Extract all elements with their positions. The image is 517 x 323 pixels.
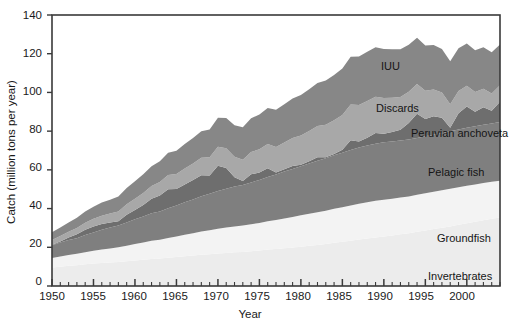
x-axis-title: Year (238, 308, 261, 320)
x-tick-label-1995: 1995 (408, 290, 434, 302)
y-axis-title: Catch (million tons per year) (5, 80, 17, 224)
x-tick-label-1955: 1955 (80, 290, 106, 302)
band-label-invertebrates: Invertebrates (428, 270, 493, 282)
catch-area-chart: 140 120 100 80 60 40 20 0 1950 1955 1960… (0, 0, 517, 323)
x-tick-label-1970: 1970 (203, 290, 229, 302)
x-tick-label-1975: 1975 (244, 290, 270, 302)
y-tick-label-80: 80 (29, 123, 42, 135)
y-tick-label-20: 20 (29, 237, 42, 249)
y-tick-label-60: 60 (29, 161, 42, 173)
band-label-iuu: IUU (381, 60, 400, 72)
y-tick-label-40: 40 (29, 199, 42, 211)
x-tick-label-1980: 1980 (285, 290, 311, 302)
band-label-discards: Discards (376, 102, 419, 114)
x-tick-label-2000: 2000 (449, 290, 475, 302)
x-tick-label-1950: 1950 (39, 290, 65, 302)
y-tick-label-140: 140 (23, 9, 42, 21)
y-tick-label-100: 100 (23, 85, 42, 97)
band-label-peruvian-anchoveta: Peruvian anchoveta (411, 127, 509, 139)
x-tick-label-1985: 1985 (326, 290, 352, 302)
x-tick-label-1990: 1990 (367, 290, 393, 302)
y-tick-label-0: 0 (36, 275, 42, 287)
band-label-groundfish: Groundfish (437, 232, 491, 244)
x-tick-label-1965: 1965 (162, 290, 188, 302)
y-tick-label-120: 120 (23, 47, 42, 59)
x-tick-label-1960: 1960 (121, 290, 147, 302)
band-label-pelagic-fish: Pelagic fish (428, 166, 484, 178)
chart-canvas: 140 120 100 80 60 40 20 0 1950 1955 1960… (0, 0, 517, 323)
